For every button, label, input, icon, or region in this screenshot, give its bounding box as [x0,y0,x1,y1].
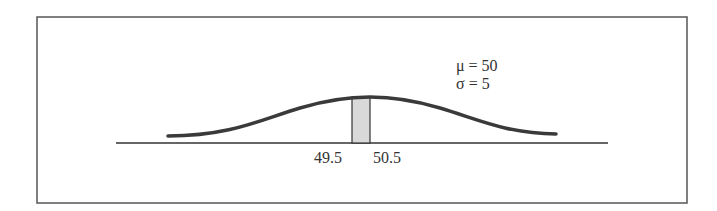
mu-label: μ = 50 [456,57,498,75]
sigma-label: σ = 5 [456,75,490,93]
interval-left-label: 49.5 [314,149,342,167]
interval-right-label: 50.5 [373,149,401,167]
normal-curve-figure [0,0,717,211]
shaded-interval-bar [352,97,370,143]
